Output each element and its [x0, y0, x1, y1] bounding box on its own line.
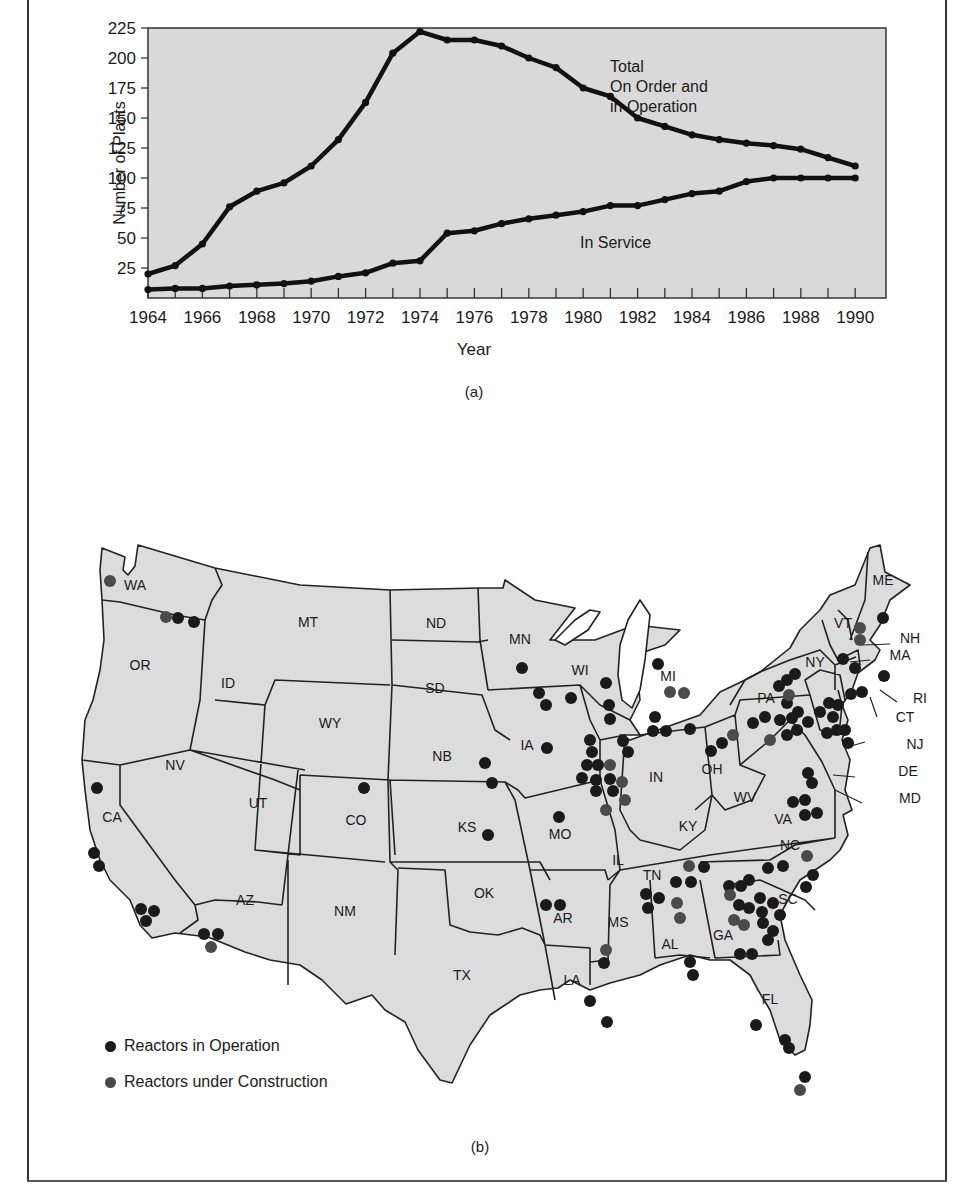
state-label-pa: PA [757, 690, 775, 706]
reactor-under-construction-dot [205, 941, 217, 953]
svg-text:1974: 1974 [401, 308, 439, 327]
reactor-in-operation-dot [756, 906, 768, 918]
construction-dot-icon [105, 1077, 116, 1088]
reactor-in-operation-dot [516, 662, 528, 674]
reactor-in-operation-dot [806, 777, 818, 789]
legend-item-operation: Reactors in Operation [105, 1037, 280, 1055]
state-label-md: MD [899, 790, 921, 806]
reactor-in-operation-dot [842, 737, 854, 749]
data-point-marker [389, 260, 396, 267]
reactor-in-operation-dot [685, 876, 697, 888]
reactor-under-construction-dot [600, 804, 612, 816]
reactor-in-operation-dot [482, 829, 494, 841]
reactor-in-operation-dot [540, 899, 552, 911]
reactor-in-operation-dot [777, 860, 789, 872]
reactor-in-operation-dot [212, 928, 224, 940]
state-label-vt: VT [834, 615, 852, 631]
data-point-marker [308, 162, 315, 169]
reactor-under-construction-dot [664, 686, 676, 698]
data-point-marker [770, 142, 777, 149]
reactor-in-operation-dot [837, 653, 849, 665]
data-point-marker [226, 203, 233, 210]
reactor-in-operation-dot [759, 711, 771, 723]
reactor-in-operation-dot [576, 772, 588, 784]
reactor-in-operation-dot [802, 716, 814, 728]
state-label-wi: WI [571, 662, 588, 678]
reactor-in-operation-dot [845, 688, 857, 700]
reactor-in-operation-dot [698, 861, 710, 873]
state-label-id: ID [221, 675, 235, 691]
svg-text:1982: 1982 [619, 308, 657, 327]
reactor-under-construction-dot [160, 611, 172, 623]
reactor-in-operation-dot [554, 899, 566, 911]
svg-text:1966: 1966 [183, 308, 221, 327]
data-point-marker [743, 140, 750, 147]
data-point-marker [471, 227, 478, 234]
svg-text:175: 175 [108, 79, 136, 98]
reactor-in-operation-dot [849, 662, 861, 674]
reactor-under-construction-dot [801, 850, 813, 862]
data-point-marker [362, 99, 369, 106]
svg-text:225: 225 [108, 19, 136, 38]
state-label-ny: NY [805, 654, 825, 670]
reactor-in-operation-dot [783, 1042, 795, 1054]
svg-text:1984: 1984 [673, 308, 711, 327]
data-point-marker [688, 190, 695, 197]
data-point-marker [335, 136, 342, 143]
reactor-in-operation-dot [856, 686, 868, 698]
data-point-marker [444, 230, 451, 237]
state-label-ca: CA [102, 809, 122, 825]
legend-item-construction: Reactors under Construction [105, 1073, 328, 1091]
reactor-in-operation-dot [586, 746, 598, 758]
reactor-in-operation-dot [877, 612, 889, 624]
reactor-under-construction-dot [854, 622, 866, 634]
reactor-in-operation-dot [604, 713, 616, 725]
data-point-marker [253, 281, 260, 288]
reactor-in-operation-dot [799, 1071, 811, 1083]
reactor-in-operation-dot [198, 928, 210, 940]
reactor-in-operation-dot [140, 915, 152, 927]
reactor-in-operation-dot [814, 706, 826, 718]
reactor-under-construction-dot [683, 860, 695, 872]
reactor-in-operation-dot [743, 902, 755, 914]
state-label-nj: NJ [906, 736, 923, 752]
reactor-in-operation-dot [93, 860, 105, 872]
reactor-under-construction-dot [104, 575, 116, 587]
reactor-in-operation-dot [135, 903, 147, 915]
data-point-marker [144, 286, 151, 293]
reactor-in-operation-dot [774, 909, 786, 921]
svg-text:50: 50 [117, 229, 136, 248]
svg-text:1970: 1970 [292, 308, 330, 327]
reactor-in-operation-dot [358, 782, 370, 794]
reactor-in-operation-dot [762, 934, 774, 946]
reactor-in-operation-dot [787, 796, 799, 808]
data-point-marker [580, 84, 587, 91]
state-label-ut: UT [249, 795, 268, 811]
state-label-nv: NV [165, 757, 185, 773]
reactor-under-construction-dot [604, 759, 616, 771]
line-chart: 255075100125150175200225 196419661968197… [0, 0, 962, 500]
data-point-marker [199, 240, 206, 247]
reactor-in-operation-dot [607, 785, 619, 797]
state-label-nc: NC [780, 837, 800, 853]
svg-text:1972: 1972 [347, 308, 385, 327]
data-point-marker [634, 114, 641, 121]
reactor-in-operation-dot [807, 869, 819, 881]
data-point-marker [552, 64, 559, 71]
reactor-in-operation-dot [553, 811, 565, 823]
reactor-in-operation-dot [603, 699, 615, 711]
reactor-in-operation-dot [839, 724, 851, 736]
state-label-me: ME [873, 572, 894, 588]
operation-dot-icon [105, 1041, 116, 1052]
state-label-ky: KY [679, 818, 698, 834]
state-label-nm: NM [334, 903, 356, 919]
reactor-in-operation-dot [762, 862, 774, 874]
data-point-marker [416, 257, 423, 264]
reactor-in-operation-dot [687, 969, 699, 981]
reactor-in-operation-dot [88, 847, 100, 859]
svg-text:1976: 1976 [455, 308, 493, 327]
svg-text:200: 200 [108, 49, 136, 68]
reactor-in-operation-dot [791, 724, 803, 736]
data-point-marker [172, 262, 179, 269]
reactor-in-operation-dot [789, 668, 801, 680]
